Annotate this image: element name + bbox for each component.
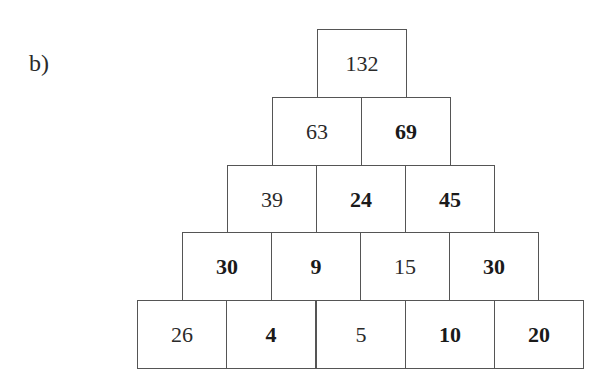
pyramid-cell-r1-c1: 69: [361, 97, 451, 166]
pyramid-cell-r3-c0: 30: [182, 232, 272, 301]
pyramid-cell-r3-c1: 9: [271, 232, 361, 301]
pyramid-cell-r2-c1: 24: [316, 165, 406, 234]
pyramid-cell-r2-c0: 39: [227, 165, 317, 234]
pyramid-cell-r2-c2: 45: [405, 165, 495, 234]
pyramid-cell-r4-c2: 5: [316, 300, 406, 369]
exercise-label: b): [29, 50, 49, 77]
pyramid-cell-r1-c0: 63: [272, 97, 362, 166]
pyramid-cell-r4-c0: 26: [137, 300, 227, 369]
pyramid-cell-r0-c0: 132: [317, 29, 407, 98]
pyramid-cell-r3-c3: 30: [449, 232, 539, 301]
pyramid-cell-r4-c3: 10: [405, 300, 495, 369]
pyramid-cell-r3-c2: 15: [360, 232, 450, 301]
pyramid-cell-r4-c1: 4: [226, 300, 316, 369]
pyramid-cell-r4-c4: 20: [494, 300, 584, 369]
